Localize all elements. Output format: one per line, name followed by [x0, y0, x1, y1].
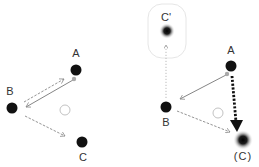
label-cprime-right: C'	[161, 11, 171, 23]
edge-b-to-c-dashed	[25, 116, 65, 136]
edge-b-to-c-dashed	[177, 111, 230, 132]
node-b	[7, 103, 18, 114]
node-a	[226, 61, 237, 72]
label-a-left: A	[72, 47, 79, 59]
left-panel	[7, 65, 88, 148]
label-a-right: A	[227, 44, 234, 56]
node-a	[71, 65, 82, 76]
label-b-right: B	[162, 116, 169, 128]
label-c-left: C	[79, 151, 87, 163]
diagram-canvas	[0, 0, 259, 167]
label-c-right: (C)	[234, 150, 252, 162]
node-a-port	[225, 72, 229, 76]
hollow-center	[60, 105, 70, 115]
hollow-center	[213, 108, 223, 118]
edge-a-to-c-thick-dotted	[232, 76, 236, 122]
node-cprime	[159, 23, 175, 39]
label-b-left: B	[6, 85, 13, 97]
node-c-blurred	[233, 130, 253, 150]
edge-a-to-b-solid	[26, 80, 73, 107]
node-b	[161, 102, 172, 113]
edge-a-to-b-solid	[180, 75, 226, 99]
node-a-port	[72, 77, 76, 81]
node-c	[77, 137, 88, 148]
right-panel	[148, 4, 253, 150]
edge-b-to-a-dashed	[24, 79, 64, 102]
